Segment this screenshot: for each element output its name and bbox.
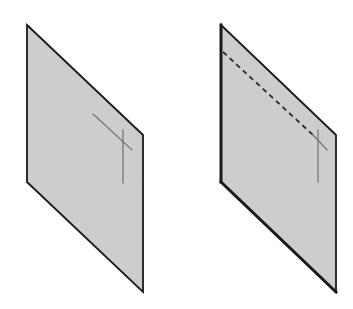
left-plane-surface: [27, 25, 143, 292]
diagram-canvas: [0, 0, 353, 309]
left-plane: [27, 25, 143, 292]
right-plane: [221, 25, 336, 292]
